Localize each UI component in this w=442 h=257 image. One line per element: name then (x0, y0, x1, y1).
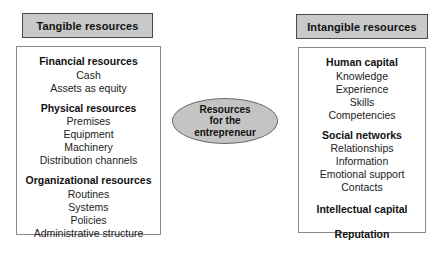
center-node-resources-for-the-entrepreneur: Resources for the entrepreneur (172, 98, 278, 144)
list-item: Systems (17, 201, 160, 214)
group-human-capital-title: Human capital (299, 56, 425, 70)
banner-tangible-resources-label: Tangible resources (37, 20, 139, 32)
panel-intangible-resources: Human capital Knowledge Experience Skill… (298, 47, 426, 233)
banner-tangible-resources: Tangible resources (22, 13, 153, 38)
group-intellectual-capital: Intellectual capital (299, 201, 425, 217)
list-item: Skills (299, 96, 425, 109)
center-node-text: Resources for the entrepreneur (172, 98, 278, 144)
center-node-line: entrepreneur (194, 127, 256, 139)
list-item: Cash (17, 69, 160, 82)
list-item: Administrative structure (17, 227, 160, 240)
group-social-networks: Social networks Relationships Informatio… (299, 129, 425, 195)
list-item: Contacts (299, 181, 425, 194)
group-reputation: Reputation (299, 226, 425, 242)
banner-intangible-resources-label: Intangible resources (307, 21, 417, 33)
list-item: Information (299, 155, 425, 168)
resources-diagram: Tangible resources Financial resources C… (0, 0, 442, 257)
list-item: Competencies (299, 109, 425, 122)
center-node-line: Resources (199, 104, 250, 116)
banner-intangible-resources: Intangible resources (296, 14, 428, 39)
group-organizational-resources-title: Organizational resources (17, 174, 160, 188)
center-node-line: for the (209, 115, 240, 127)
group-organizational-resources: Organizational resources Routines System… (17, 174, 160, 240)
panel-intangible-content: Human capital Knowledge Experience Skill… (299, 48, 425, 242)
list-item: Distribution channels (17, 154, 160, 167)
list-item: Premises (17, 115, 160, 128)
list-item: Emotional support (299, 168, 425, 181)
list-item: Experience (299, 83, 425, 96)
group-physical-resources-title: Physical resources (17, 102, 160, 116)
panel-tangible-content: Financial resources Cash Assets as equit… (17, 47, 160, 240)
list-item: Equipment (17, 128, 160, 141)
panel-tangible-resources: Financial resources Cash Assets as equit… (16, 46, 161, 235)
group-financial-resources-title: Financial resources (17, 55, 160, 69)
list-item: Knowledge (299, 70, 425, 83)
group-financial-resources: Financial resources Cash Assets as equit… (17, 55, 160, 95)
group-intellectual-capital-title: Intellectual capital (299, 201, 425, 217)
list-item: Routines (17, 188, 160, 201)
group-reputation-title: Reputation (299, 226, 425, 242)
group-physical-resources: Physical resources Premises Equipment Ma… (17, 102, 160, 168)
list-item: Relationships (299, 142, 425, 155)
group-human-capital: Human capital Knowledge Experience Skill… (299, 56, 425, 122)
group-social-networks-title: Social networks (299, 129, 425, 143)
list-item: Policies (17, 214, 160, 227)
list-item: Assets as equity (17, 82, 160, 95)
list-item: Machinery (17, 141, 160, 154)
